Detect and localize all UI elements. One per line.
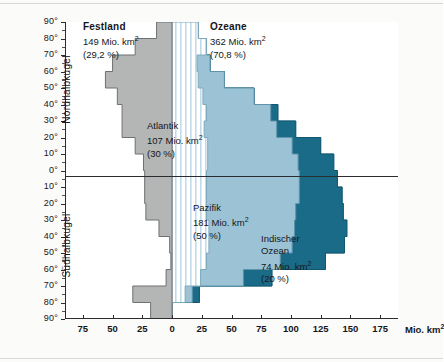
x-tick-label-75-6: 75 [256, 324, 267, 334]
y-tick-label-70: 70° [44, 50, 58, 59]
x-tick-1 [113, 315, 114, 319]
x-tick-label-150-9: 150 [342, 324, 358, 334]
x-axis-unit-label: Mio. km2 [405, 323, 444, 335]
y-tick-label-40: 40° [44, 100, 58, 109]
y-tick-10 [61, 154, 65, 155]
y-tick-label--20: 20° [44, 199, 58, 208]
annotation-indischer-ozean: Indischer Ozean 74 Mio. km2 (20 %) [261, 233, 311, 286]
y-tick-label--90: 90° [44, 314, 58, 323]
x-tick-2 [142, 315, 143, 319]
y-tick-minor--75 [62, 294, 65, 295]
x-tick-6 [261, 315, 262, 319]
atlantik-area-sup: 2 [199, 134, 203, 141]
indik-area: 74 Mio. km [261, 261, 307, 272]
x-tick-3 [172, 315, 173, 319]
ozeane-title: Ozeane [210, 21, 247, 32]
indik-percent: (20 %) [261, 273, 289, 284]
x-tick-label-50-1: 50 [107, 324, 118, 334]
x-tick-label-25-4: 25 [196, 324, 207, 334]
x-tick-label-100-7: 100 [283, 324, 299, 334]
y-tick-minor--5 [62, 179, 65, 180]
atlantik-percent: (30 %) [147, 148, 175, 159]
atlantik-area: 107 Mio. km [147, 136, 199, 147]
y-tick-label--30: 30° [44, 215, 58, 224]
hemisphere-label-south: Südhalbkugel [61, 198, 72, 294]
page-bottom-rule [0, 358, 443, 359]
y-tick--10 [61, 187, 65, 188]
y-tick--80 [61, 303, 65, 304]
y-tick-label-20: 20° [44, 133, 58, 142]
x-tick-label-175-10: 175 [372, 324, 388, 334]
y-tick-label--80: 80° [44, 298, 58, 307]
x-tick-label-0-3: 0 [169, 324, 174, 334]
y-tick-label-10: 10° [44, 149, 58, 158]
y-tick-minor--15 [62, 195, 65, 196]
unit-text: Mio. km [405, 324, 440, 335]
y-tick-minor-5 [62, 162, 65, 163]
y-tick-80 [61, 39, 65, 40]
pazifik-area: 181 Mio. km [193, 218, 245, 229]
pazifik-title: Pazifik [193, 202, 221, 213]
atlantik-title: Atlantik [147, 120, 178, 131]
ozeane-area-sup: 2 [262, 35, 266, 42]
pazifik-percent: (50 %) [193, 230, 221, 241]
equator-line [65, 176, 398, 177]
y-tick-label-80: 80° [44, 34, 58, 43]
x-tick-7 [291, 315, 292, 319]
y-tick-label--40: 40° [44, 232, 58, 241]
ozeane-area: 362 Mio. km [210, 37, 262, 48]
y-tick-label--60: 60° [44, 265, 58, 274]
annotation-pazifik: Pazifik 181 Mio. km2 (50 %) [193, 202, 249, 242]
y-tick-label-30: 30° [44, 116, 58, 125]
x-tick-8 [321, 315, 322, 319]
indik-area-sup: 2 [307, 260, 311, 267]
indik-title2: Ozean [261, 245, 289, 256]
ozeane-percent: (70,8 %) [210, 49, 246, 60]
y-tick-label--70: 70° [44, 281, 58, 290]
y-tick-label-60: 60° [44, 67, 58, 76]
annotation-atlantik: Atlantik 107 Mio. km2 (30 %) [147, 120, 203, 160]
x-tick-4 [202, 315, 203, 319]
indik-title: Indischer [261, 233, 300, 244]
page-top-rule [0, 3, 443, 4]
festland-title: Festland [83, 21, 126, 32]
annotation-ozeane: Ozeane 362 Mio. km2 (70,8 %) [210, 21, 266, 61]
x-tick-label-50-5: 50 [226, 324, 237, 334]
y-tick--90 [61, 319, 65, 320]
y-tick-label-0: 0° [49, 166, 58, 175]
annotation-festland: Festland 149 Mio. km2 (29,2 %) [83, 21, 139, 61]
y-tick-minor--85 [62, 311, 65, 312]
y-tick-label--10: 10° [44, 182, 58, 191]
y-tick-minor-85 [62, 30, 65, 31]
land-layer [65, 22, 398, 319]
x-tick-label-25-2: 25 [137, 324, 148, 334]
x-tick-10 [380, 315, 381, 319]
festland-area-sup: 2 [135, 35, 139, 42]
x-tick-9 [350, 315, 351, 319]
x-tick-label-125-8: 125 [313, 324, 329, 334]
x-tick-5 [232, 315, 233, 319]
y-tick-label--50: 50° [44, 248, 58, 257]
y-tick-0 [61, 171, 65, 172]
unit-superscript: 2 [440, 323, 444, 330]
festland-percent: (29,2 %) [83, 49, 119, 60]
x-tick-0 [83, 315, 84, 319]
hemisphere-label-north: Nordhalbkugel [61, 42, 72, 138]
y-tick-label-50: 50° [44, 83, 58, 92]
y-tick-20 [61, 138, 65, 139]
festland-area: 149 Mio. km [83, 37, 135, 48]
x-tick-label-75-0: 75 [78, 324, 89, 334]
y-tick-minor-15 [62, 146, 65, 147]
y-tick-90 [61, 22, 65, 23]
pazifik-area-sup: 2 [245, 216, 249, 223]
y-tick-label-90: 90° [44, 17, 58, 26]
plot-area: 90°80°70°60°50°40°30°20°10°0°10°20°30°40… [65, 22, 398, 319]
